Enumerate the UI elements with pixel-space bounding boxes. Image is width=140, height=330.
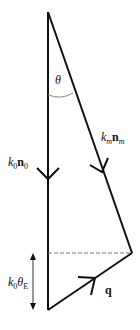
theta-arc (48, 93, 73, 97)
q-label: q (105, 284, 112, 296)
k0-thetaE-label: k0θE (8, 276, 28, 291)
n0-subscript: 0 (24, 162, 28, 171)
nm-symbol: n (112, 130, 119, 144)
arrowhead-down-icon (30, 303, 36, 310)
nm-subscript: m (119, 137, 125, 146)
arrowhead-up-icon (30, 253, 36, 260)
k0-n0-label: k0n0 (8, 156, 28, 171)
n0-symbol: n (17, 155, 24, 169)
km-nm-label: kmnm (101, 131, 125, 146)
theta-label: θ (55, 74, 61, 86)
kE-theta-subscript: E (23, 282, 28, 291)
q-vector-line (48, 253, 132, 310)
